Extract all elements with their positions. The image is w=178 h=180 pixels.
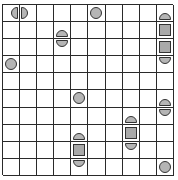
board-cell-r9-c9[interactable]: [157, 159, 174, 176]
board-cell-r3-c4[interactable]: [71, 56, 88, 73]
board-cell-r8-c1[interactable]: [20, 142, 37, 159]
board-cell-r8-c9[interactable]: [157, 142, 174, 159]
board-cell-r9-c8[interactable]: [140, 159, 157, 176]
board-cell-r5-c4[interactable]: [71, 90, 88, 107]
board-cell-r6-c8[interactable]: [140, 108, 157, 125]
board-cell-r0-c5[interactable]: [88, 5, 105, 22]
half-circle-up-icon[interactable]: [159, 99, 171, 106]
board-cell-r8-c0[interactable]: [3, 142, 20, 159]
board-cell-r8-c7[interactable]: [123, 142, 140, 159]
board-cell-r1-c1[interactable]: [20, 22, 37, 39]
board-cell-r5-c8[interactable]: [140, 90, 157, 107]
board-cell-r9-c5[interactable]: [88, 159, 105, 176]
board-cell-r1-c2[interactable]: [37, 22, 54, 39]
board-cell-r8-c4[interactable]: [71, 142, 88, 159]
board-cell-r5-c7[interactable]: [123, 90, 140, 107]
board-cell-r6-c7[interactable]: [123, 108, 140, 125]
board-cell-r1-c7[interactable]: [123, 22, 140, 39]
board-cell-r7-c7[interactable]: [123, 125, 140, 142]
board-cell-r2-c9[interactable]: [157, 39, 174, 56]
board-cell-r5-c6[interactable]: [106, 90, 123, 107]
board-cell-r8-c5[interactable]: [88, 142, 105, 159]
board-cell-r2-c0[interactable]: [3, 39, 20, 56]
board-cell-r5-c0[interactable]: [3, 90, 20, 107]
board-cell-r6-c2[interactable]: [37, 108, 54, 125]
board-cell-r3-c3[interactable]: [54, 56, 71, 73]
board-cell-r3-c8[interactable]: [140, 56, 157, 73]
board-cell-r2-c4[interactable]: [71, 39, 88, 56]
board-cell-r8-c6[interactable]: [106, 142, 123, 159]
half-circle-down-icon[interactable]: [73, 160, 85, 167]
board-cell-r2-c1[interactable]: [20, 39, 37, 56]
board-cell-r1-c8[interactable]: [140, 22, 157, 39]
board-cell-r4-c6[interactable]: [106, 73, 123, 90]
square-piece-icon[interactable]: [73, 144, 85, 156]
board-cell-r9-c6[interactable]: [106, 159, 123, 176]
board-cell-r2-c8[interactable]: [140, 39, 157, 56]
board-cell-r5-c1[interactable]: [20, 90, 37, 107]
board-cell-r6-c6[interactable]: [106, 108, 123, 125]
board-cell-r7-c8[interactable]: [140, 125, 157, 142]
board-cell-r9-c4[interactable]: [71, 159, 88, 176]
board-cell-r0-c6[interactable]: [106, 5, 123, 22]
board-cell-r1-c3[interactable]: [54, 22, 71, 39]
board-cell-r4-c9[interactable]: [157, 73, 174, 90]
board-cell-r3-c9[interactable]: [157, 56, 174, 73]
board-cell-r5-c3[interactable]: [54, 90, 71, 107]
board-cell-r2-c5[interactable]: [88, 39, 105, 56]
board-cell-r5-c9[interactable]: [157, 90, 174, 107]
board-cell-r9-c0[interactable]: [3, 159, 20, 176]
board-cell-r1-c0[interactable]: [3, 22, 20, 39]
board-cell-r5-c2[interactable]: [37, 90, 54, 107]
board-cell-r6-c5[interactable]: [88, 108, 105, 125]
board-cell-r4-c8[interactable]: [140, 73, 157, 90]
circle-piece-icon[interactable]: [159, 161, 171, 173]
board-cell-r1-c6[interactable]: [106, 22, 123, 39]
half-circle-up-icon[interactable]: [56, 30, 68, 37]
board-cell-r6-c3[interactable]: [54, 108, 71, 125]
board-cell-r3-c7[interactable]: [123, 56, 140, 73]
board-cell-r7-c0[interactable]: [3, 125, 20, 142]
half-circle-right-icon[interactable]: [21, 7, 28, 19]
board-cell-r0-c3[interactable]: [54, 5, 71, 22]
board-cell-r6-c4[interactable]: [71, 108, 88, 125]
board-cell-r0-c1[interactable]: [20, 5, 37, 22]
board-cell-r7-c3[interactable]: [54, 125, 71, 142]
board-cell-r9-c3[interactable]: [54, 159, 71, 176]
board-cell-r7-c5[interactable]: [88, 125, 105, 142]
board-cell-r8-c3[interactable]: [54, 142, 71, 159]
board-cell-r9-c2[interactable]: [37, 159, 54, 176]
board-cell-r9-c7[interactable]: [123, 159, 140, 176]
half-circle-up-icon[interactable]: [125, 116, 137, 123]
board-cell-r2-c7[interactable]: [123, 39, 140, 56]
board-cell-r6-c0[interactable]: [3, 108, 20, 125]
board-cell-r3-c1[interactable]: [20, 56, 37, 73]
board-cell-r0-c4[interactable]: [71, 5, 88, 22]
board-cell-r1-c4[interactable]: [71, 22, 88, 39]
circle-piece-icon[interactable]: [5, 58, 17, 70]
board-cell-r3-c0[interactable]: [3, 56, 20, 73]
board-cell-r2-c2[interactable]: [37, 39, 54, 56]
half-circle-down-icon[interactable]: [159, 57, 171, 64]
board-cell-r5-c5[interactable]: [88, 90, 105, 107]
board-cell-r3-c6[interactable]: [106, 56, 123, 73]
board-cell-r7-c9[interactable]: [157, 125, 174, 142]
board-cell-r2-c6[interactable]: [106, 39, 123, 56]
board-cell-r3-c2[interactable]: [37, 56, 54, 73]
board-cell-r7-c2[interactable]: [37, 125, 54, 142]
board-cell-r0-c0[interactable]: [3, 5, 20, 22]
board-cell-r4-c7[interactable]: [123, 73, 140, 90]
board-cell-r4-c0[interactable]: [3, 73, 20, 90]
board-cell-r4-c2[interactable]: [37, 73, 54, 90]
square-piece-icon[interactable]: [159, 24, 171, 36]
board-cell-r4-c3[interactable]: [54, 73, 71, 90]
board-cell-r6-c1[interactable]: [20, 108, 37, 125]
half-circle-down-icon[interactable]: [56, 40, 68, 47]
board-cell-r0-c2[interactable]: [37, 5, 54, 22]
half-circle-left-icon[interactable]: [11, 7, 18, 19]
circle-piece-icon[interactable]: [90, 7, 102, 19]
board-cell-r3-c5[interactable]: [88, 56, 105, 73]
board-cell-r4-c4[interactable]: [71, 73, 88, 90]
board-cell-r4-c5[interactable]: [88, 73, 105, 90]
board-cell-r0-c7[interactable]: [123, 5, 140, 22]
